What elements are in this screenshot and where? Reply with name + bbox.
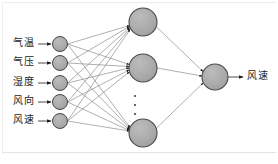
neural-network-graph (0, 0, 278, 164)
input-label-humidity: 湿度 (13, 77, 34, 87)
input-node-4[interactable] (53, 95, 68, 110)
output-label-wind-speed: 风速 (247, 71, 268, 81)
hidden-layer-nodes (129, 8, 157, 147)
input-label-wind-speed: 风速 (13, 115, 34, 125)
output-node-1[interactable] (202, 64, 228, 90)
hidden-node-3[interactable] (129, 119, 157, 147)
input-node-3[interactable] (53, 76, 68, 91)
input-node-5[interactable] (53, 114, 68, 129)
output-layer-nodes (202, 64, 228, 90)
input-label-temperature: 气温 (13, 38, 34, 48)
input-label-wind-direction: 风向 (13, 96, 34, 106)
input-node-2[interactable] (53, 56, 68, 71)
input-layer-nodes (53, 37, 68, 129)
input-label-pressure: 气压 (13, 57, 34, 67)
edges-input-to-hidden (68, 26, 131, 132)
hidden-node-2[interactable] (129, 54, 157, 82)
edges-hidden-to-output (157, 27, 203, 128)
hidden-layer-ellipsis-icon (131, 95, 139, 115)
figure-canvas: 气温 气压 湿度 风向 风速 风速 (0, 0, 278, 164)
input-node-1[interactable] (53, 37, 68, 52)
input-feed-arrows (38, 44, 51, 121)
hidden-node-1[interactable] (129, 8, 157, 36)
